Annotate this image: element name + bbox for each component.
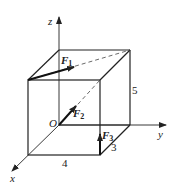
force-f1-label: F1 [60, 54, 72, 68]
cube-edge [100, 50, 130, 80]
cube-front-face [28, 80, 100, 155]
y-axis-label: y [157, 128, 163, 140]
width-label: 4 [62, 157, 68, 169]
depth-label: 3 [111, 141, 117, 153]
cube-diagram: z y x O F1 F2 F3 5 4 3 [0, 0, 176, 189]
origin-label: O [49, 117, 57, 129]
height-label: 5 [132, 84, 138, 96]
x-axis [12, 125, 59, 171]
x-axis-label: x [9, 172, 15, 184]
z-axis-label: z [47, 15, 53, 27]
force-f2-label: F2 [72, 107, 84, 121]
